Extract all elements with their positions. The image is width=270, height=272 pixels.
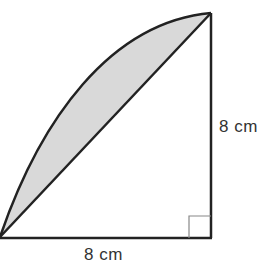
right-angle-marker xyxy=(189,216,211,238)
horizontal-side-label: 8 cm xyxy=(84,245,123,265)
vertical-side-label: 8 cm xyxy=(219,117,258,137)
hypotenuse xyxy=(0,13,211,237)
